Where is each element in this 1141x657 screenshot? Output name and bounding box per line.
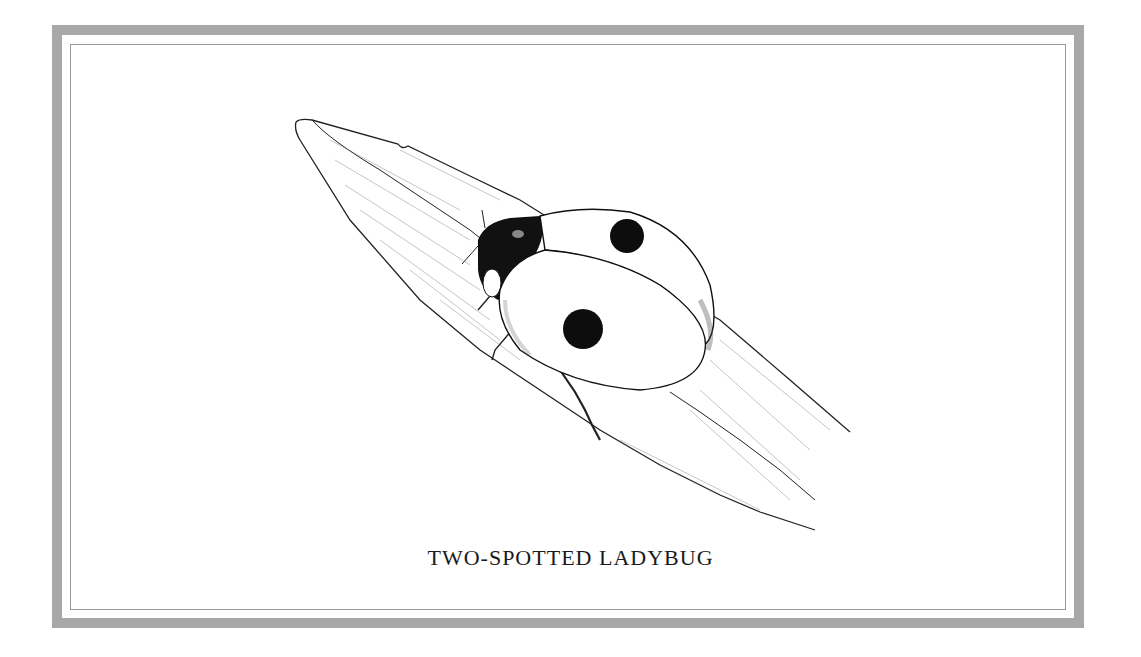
- spot-upper: [610, 219, 644, 253]
- spot-lower: [563, 309, 603, 349]
- plate-caption: TWO-SPOTTED LADYBUG: [0, 545, 1141, 571]
